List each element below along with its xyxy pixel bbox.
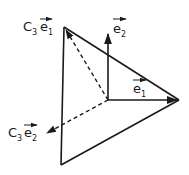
svg-text:C: C: [8, 125, 17, 140]
label-c3e2: C 3 e 2: [8, 125, 37, 143]
svg-text:e: e: [24, 125, 32, 140]
triangle-vector-diagram: C 3 e 1 e 2 e 1 C 3 e 2: [0, 0, 189, 175]
svg-text:C: C: [23, 19, 32, 34]
vector-c3e1: [66, 30, 108, 100]
svg-text:2: 2: [32, 134, 37, 143]
svg-text:1: 1: [48, 28, 53, 37]
svg-text:3: 3: [17, 134, 22, 143]
svg-text:e: e: [113, 21, 121, 36]
svg-text:e: e: [40, 19, 48, 34]
svg-text:1: 1: [141, 90, 146, 99]
svg-text:e: e: [133, 81, 141, 96]
edge-right-bottom: [61, 100, 179, 165]
label-e1: e 1: [133, 80, 146, 99]
svg-text:2: 2: [121, 30, 126, 39]
edge-bottom-top: [61, 27, 64, 165]
label-e2: e 2: [113, 19, 126, 39]
svg-text:3: 3: [32, 28, 37, 37]
label-c3e1: C 3 e 1: [23, 19, 53, 37]
vector-c3e2: [47, 100, 108, 133]
